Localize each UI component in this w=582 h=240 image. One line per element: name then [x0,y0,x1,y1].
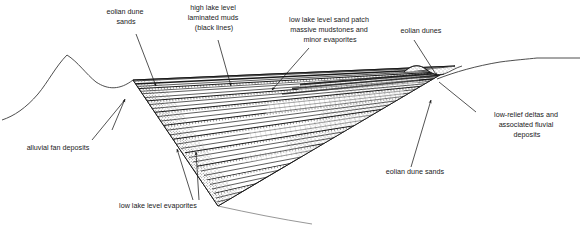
label-line: eolian dunes [401,26,442,35]
label-line: eolian dune [106,7,143,16]
label-line: high lake level [190,3,236,12]
label-line: associated fluvial [499,120,554,129]
label-alluvial-fan-deposits: alluvial fan deposits [27,143,90,152]
label-eolian-dunes-top-right: eolian dunes [401,26,442,35]
label-line: low-relief deltas and [494,110,558,119]
label-low-lake-level-evaporites: low lake level evaporites [119,201,197,210]
label-high-lake-level-muds: high lake level laminated muds (black li… [188,3,241,32]
geologic-cross-section-figure: eolian dune sands high lake level lamina… [0,0,582,240]
label-line: eolian dune sands [386,167,445,176]
label-eolian-dune-sands-bottom: eolian dune sands [386,167,445,176]
label-line: minor evaporites [303,35,357,44]
label-line: deposits [514,130,541,139]
label-line: massive mudstones and [290,25,368,34]
label-line: laminated muds [188,13,239,22]
label-line: (black lines) [195,23,233,32]
label-line: low lake level evaporites [119,201,197,210]
label-line: sands [116,17,136,26]
label-line: alluvial fan deposits [27,143,90,152]
cross-section-drawing: eolian dune sands high lake level lamina… [0,0,582,240]
label-line: low lake level sand patch [289,15,369,24]
